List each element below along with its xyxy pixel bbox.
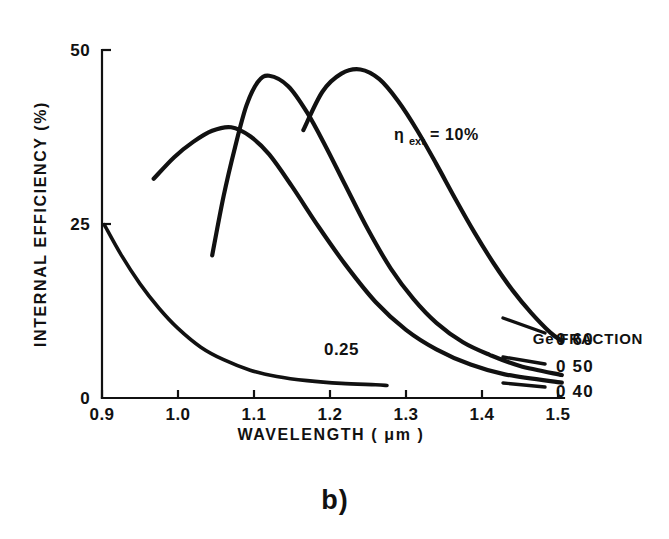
eta-value: = 10% xyxy=(430,126,479,143)
data-curves xyxy=(104,69,562,385)
legend-label-060: 0 60 xyxy=(556,330,594,349)
y-tick-label: 0 xyxy=(80,389,90,408)
x-tick-label: 1.3 xyxy=(394,405,419,424)
curve-ge-025 xyxy=(104,225,387,386)
y-axis-title: INTERNAL EFFICIENCY (%) xyxy=(32,101,49,347)
x-tick-label: 1.2 xyxy=(318,405,343,424)
y-axis-ticks xyxy=(102,50,111,224)
eta-ext-annotation: η ext = 10% xyxy=(394,126,479,147)
x-axis-ticks xyxy=(102,390,558,398)
x-axis-tick-labels: 0.91.01.11.21.31.41.5 xyxy=(90,405,571,424)
x-axis-title: WAVELENGTH ( μm ) xyxy=(238,426,425,443)
internal-efficiency-chart: 0.91.01.11.21.31.41.5 02550 WAVELENGTH (… xyxy=(0,0,669,539)
x-tick-label: 1.4 xyxy=(470,405,495,424)
x-tick-label: 1.5 xyxy=(546,405,571,424)
legend-label-050: 0 50 xyxy=(556,357,594,376)
figure-caption: b) xyxy=(321,485,348,515)
eta-subscript: ext xyxy=(409,135,425,147)
legend-label-040: 0 40 xyxy=(556,382,594,401)
curve-ge-060 xyxy=(303,69,561,341)
inline-curve-label-025: 0.25 xyxy=(324,340,359,359)
x-tick-label: 0.9 xyxy=(90,405,115,424)
legend-swatch-040 xyxy=(503,383,545,387)
eta-symbol: η xyxy=(394,126,404,143)
y-tick-label: 25 xyxy=(70,215,90,234)
figure-panel: 0.91.01.11.21.31.41.5 02550 WAVELENGTH (… xyxy=(0,0,669,539)
legend: Ge FRACTION 0 600 500 40 xyxy=(503,318,643,401)
y-axis-tick-labels: 02550 xyxy=(70,41,90,408)
curve-ge-050 xyxy=(212,76,562,375)
y-tick-label: 50 xyxy=(70,41,90,60)
x-tick-label: 1.0 xyxy=(166,405,191,424)
x-tick-label: 1.1 xyxy=(242,405,267,424)
